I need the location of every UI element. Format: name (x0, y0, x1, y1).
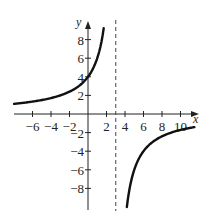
x-tick-label: −4 (44, 119, 58, 134)
x-tick-label: 6 (140, 119, 147, 134)
y-tick-label: 6 (78, 51, 85, 66)
y-axis-label: y (75, 15, 82, 29)
y-tick-label: 8 (78, 33, 85, 48)
x-tick-label: 8 (159, 119, 166, 134)
y-tick-label: −8 (70, 181, 84, 196)
y-tick-label: −2 (70, 126, 84, 141)
y-axis-arrow-icon (85, 21, 91, 29)
x-tick-label: −6 (26, 119, 40, 134)
rational-function-graph: x y −6−4−2246810 8642−2−4−6−8 (0, 0, 205, 218)
x-axis-label: x (192, 112, 199, 126)
x-tick-label: 4 (122, 119, 129, 134)
y-tick-label: 2 (78, 88, 85, 103)
y-tick-label: −4 (70, 144, 84, 159)
right-branch-curve (127, 127, 195, 207)
curves (14, 28, 194, 207)
y-tick-label: −6 (70, 163, 84, 178)
x-tick-label: 2 (103, 119, 110, 134)
